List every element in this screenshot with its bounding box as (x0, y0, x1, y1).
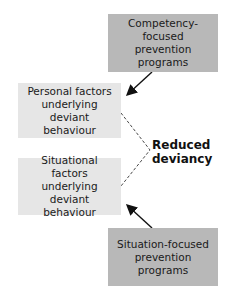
personal-line-3: behaviour (22, 124, 117, 137)
competency-programs-box: Competency-focused prevention programs (108, 14, 218, 72)
situational-line-2: underlying deviant (22, 180, 117, 206)
outcome-line-1: Reduced (152, 138, 212, 152)
outcome-line-2: deviancy (152, 152, 212, 166)
personal-line-1: Personal factors (22, 85, 117, 98)
personal-factors-box: Personal factors underlying deviant beha… (18, 83, 121, 138)
reduced-deviancy-label: Reduced deviancy (152, 138, 212, 166)
competency-line-2: prevention (112, 43, 214, 56)
competency-line-1: Competency-focused (112, 17, 214, 43)
situational-line-3: behaviour (22, 206, 117, 219)
situational-factors-box: Situational factors underlying deviant b… (18, 158, 121, 215)
arrow-situation-to-situational (128, 206, 152, 228)
arrow-competency-to-personal (128, 72, 152, 94)
situation-programs-box: Situation-focused prevention programs (108, 228, 218, 286)
situation-line-1: Situation-focused (117, 238, 209, 251)
situation-line-2: prevention (117, 251, 209, 264)
situational-line-1: Situational factors (22, 154, 117, 180)
dashed-links-to-outcome (121, 113, 150, 186)
situation-line-3: programs (117, 264, 209, 277)
personal-line-2: underlying deviant (22, 98, 117, 124)
competency-line-3: programs (112, 56, 214, 69)
